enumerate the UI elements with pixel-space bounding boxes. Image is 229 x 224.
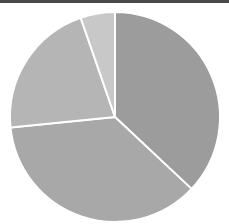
pie-chart bbox=[0, 0, 229, 224]
